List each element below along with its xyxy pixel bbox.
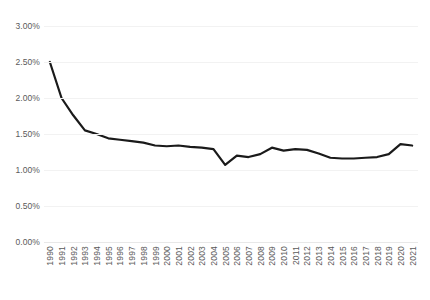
x-axis-tick-label: 2003 — [197, 246, 207, 266]
gridline — [44, 62, 418, 63]
x-axis-tick-label: 1997 — [127, 246, 137, 266]
x-axis-tick-label: 2021 — [408, 246, 418, 266]
y-axis-tick-label: 1.00% — [0, 165, 40, 175]
x-axis-tick-label: 2001 — [174, 246, 184, 266]
x-axis-tick-label: 1990 — [45, 246, 55, 266]
x-axis-tick-label: 2018 — [373, 246, 383, 266]
x-axis-tick-label: 2005 — [221, 246, 231, 266]
x-axis-tick-label: 1993 — [80, 246, 90, 266]
line-chart: 3.00%2.50%2.00%1.50%1.00%0.50%0.00% 1990… — [0, 0, 430, 300]
x-axis-tick-label: 2015 — [338, 246, 348, 266]
x-axis-tick-label: 2013 — [314, 246, 324, 266]
x-axis-tick-label: 2004 — [209, 246, 219, 266]
x-axis-tick-label: 2007 — [244, 246, 254, 266]
y-axis-tick-label: 2.50% — [0, 57, 40, 67]
x-axis-tick-label: 2019 — [384, 246, 394, 266]
x-axis-tick-label: 2012 — [302, 246, 312, 266]
x-axis-tick-label: 1995 — [104, 246, 114, 266]
x-axis-tick-label: 1991 — [57, 246, 67, 266]
x-axis-labels: 1990199119921993199419951996199719981999… — [44, 246, 418, 300]
x-axis-tick-label: 2020 — [396, 246, 406, 266]
x-axis-tick-label: 2011 — [291, 246, 301, 265]
gridline — [44, 98, 418, 99]
x-axis-tick-label: 1998 — [139, 246, 149, 266]
x-axis-tick-label: 2009 — [267, 246, 277, 266]
x-axis-tick-label: 2002 — [186, 246, 196, 266]
x-axis-tick-label: 2016 — [349, 246, 359, 266]
plot-area — [44, 26, 418, 242]
x-axis-tick-label: 2006 — [232, 246, 242, 266]
y-axis-tick-label: 0.50% — [0, 201, 40, 211]
gridline — [44, 170, 418, 171]
gridline — [44, 206, 418, 207]
y-axis-tick-label: 2.00% — [0, 93, 40, 103]
y-axis-labels: 3.00%2.50%2.00%1.50%1.00%0.50%0.00% — [0, 26, 40, 242]
x-axis-tick-label: 2017 — [361, 246, 371, 266]
y-axis-tick-label: 1.50% — [0, 129, 40, 139]
x-axis-tick-label: 2010 — [279, 246, 289, 266]
x-axis-tick-label: 1996 — [115, 246, 125, 266]
gridline — [44, 26, 418, 27]
y-axis-tick-label: 3.00% — [0, 21, 40, 31]
x-axis-tick-label: 1992 — [69, 246, 79, 266]
x-axis-tick-label: 2014 — [326, 246, 336, 266]
x-axis-tick-label: 1999 — [151, 246, 161, 266]
y-axis-tick-label: 0.00% — [0, 237, 40, 247]
gridline — [44, 134, 418, 135]
data-line — [50, 62, 412, 165]
x-axis-tick-label: 2000 — [162, 246, 172, 266]
x-axis-tick-label: 2008 — [256, 246, 266, 266]
x-axis-tick-label: 1994 — [92, 246, 102, 266]
axis-baseline — [44, 242, 418, 243]
